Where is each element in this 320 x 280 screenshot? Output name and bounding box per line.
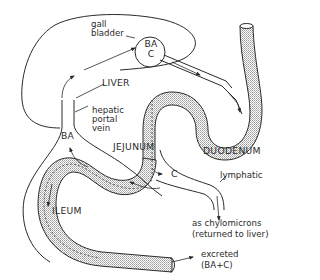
gall-bladder-pointer xyxy=(126,36,135,38)
liver-pointer xyxy=(76,84,104,98)
hepatic-portal-pointer xyxy=(75,106,88,112)
label-chylomicrons: as chylomicrons (returned to liver) xyxy=(192,219,269,239)
label-jejunum: JEJUNUM xyxy=(113,142,155,152)
bile-flow-arrow-2 xyxy=(228,92,240,112)
duodenum-opening xyxy=(240,24,253,29)
label-ba-return: BA xyxy=(61,131,74,141)
label-ileum: ILEUM xyxy=(52,206,82,216)
liver-to-gallbladder-arrow xyxy=(62,76,74,98)
label-gb-c: C xyxy=(142,49,160,59)
label-gall-bladder: gall bladder xyxy=(91,20,124,38)
label-liver: LIVER xyxy=(102,78,130,88)
label-returned-to-liver: (returned to liver) xyxy=(192,230,269,239)
label-lymphatic: lymphatic xyxy=(220,171,263,180)
label-vein: vein xyxy=(92,124,124,133)
lymphatic-vessel xyxy=(160,150,224,210)
lymphatic-flow-arrow xyxy=(217,196,219,220)
label-as-chylomicrons: as chylomicrons xyxy=(192,219,269,228)
label-gb-contents: BA C xyxy=(142,39,160,58)
label-hepatic-portal-vein: hepatic portal vein xyxy=(92,106,124,133)
label-excreted-text: excreted xyxy=(201,250,239,259)
label-excreted-ba-c: (BA+C) xyxy=(201,261,239,270)
excretion-arrow xyxy=(172,257,193,262)
label-duodenum: DUODENUM xyxy=(203,146,261,156)
label-excreted: excreted (BA+C) xyxy=(201,250,239,270)
label-c-absorbed: C xyxy=(171,169,178,179)
label-bladder: bladder xyxy=(91,29,124,38)
